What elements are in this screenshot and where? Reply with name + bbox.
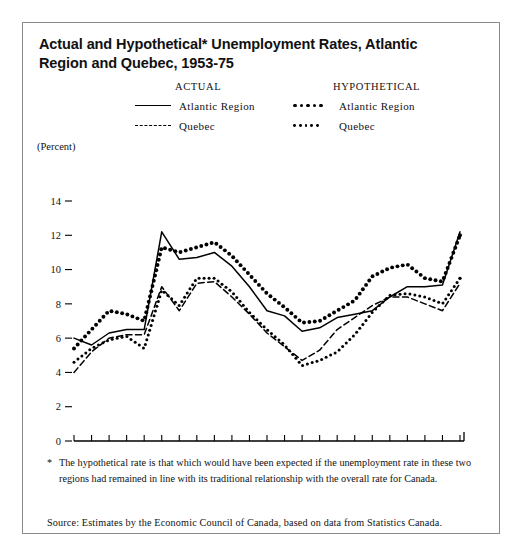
svg-text:4: 4 <box>56 367 62 378</box>
legend-item-hypo-atlantic: Atlantic Region <box>291 97 420 114</box>
footnote: * The hypothetical rate is that which wo… <box>59 455 471 486</box>
svg-text:1955: 1955 <box>99 449 120 451</box>
legend-label-hypo-atlantic: Atlantic Region <box>339 100 415 112</box>
chart-legend: ACTUAL Atlantic Region Quebec HYPOTHETIC… <box>23 81 501 141</box>
svg-text:1965: 1965 <box>274 449 295 451</box>
legend-item-hypo-quebec: Quebec <box>291 117 420 134</box>
plot-area: (Percent) 024681012141953195519601965197… <box>23 141 501 451</box>
legend-label-actual-quebec: Quebec <box>179 120 215 132</box>
svg-text:6: 6 <box>56 333 61 344</box>
legend-group-hypothetical: HYPOTHETICAL Atlantic Region Quebec <box>291 81 420 137</box>
svg-text:8: 8 <box>56 299 61 310</box>
legend-heading-actual: ACTUAL <box>175 81 255 92</box>
legend-item-actual-quebec: Quebec <box>133 117 255 134</box>
legend-label-hypo-quebec: Quebec <box>339 120 375 132</box>
svg-text:10: 10 <box>51 264 62 275</box>
large-dots-icon <box>291 100 333 112</box>
svg-text:1953: 1953 <box>64 449 85 451</box>
legend-label-actual-atlantic: Atlantic Region <box>179 100 255 112</box>
source-note: Source: Estimates by the Economic Counci… <box>47 517 487 528</box>
dashed-line-icon <box>133 120 173 132</box>
legend-item-actual-atlantic: Atlantic Region <box>133 97 255 114</box>
svg-text:1970: 1970 <box>362 449 383 451</box>
svg-text:1960: 1960 <box>186 449 207 451</box>
line-chart: 02468101214195319551960196519701975 <box>23 141 501 451</box>
small-dots-icon <box>291 120 333 132</box>
svg-text:2: 2 <box>56 401 61 412</box>
footnote-text: The hypothetical rate is that which woul… <box>59 457 471 484</box>
svg-text:14: 14 <box>51 196 62 207</box>
page-title: Actual and Hypothetical* Unemployment Ra… <box>39 35 469 73</box>
solid-line-icon <box>133 100 173 112</box>
figure-panel: Actual and Hypothetical* Unemployment Ra… <box>22 22 500 534</box>
svg-text:0: 0 <box>56 436 61 447</box>
legend-group-actual: ACTUAL Atlantic Region Quebec <box>133 81 255 137</box>
svg-text:1975: 1975 <box>450 449 471 451</box>
svg-text:12: 12 <box>51 230 62 241</box>
footnote-marker: * <box>47 455 52 471</box>
legend-heading-hypothetical: HYPOTHETICAL <box>333 81 420 92</box>
